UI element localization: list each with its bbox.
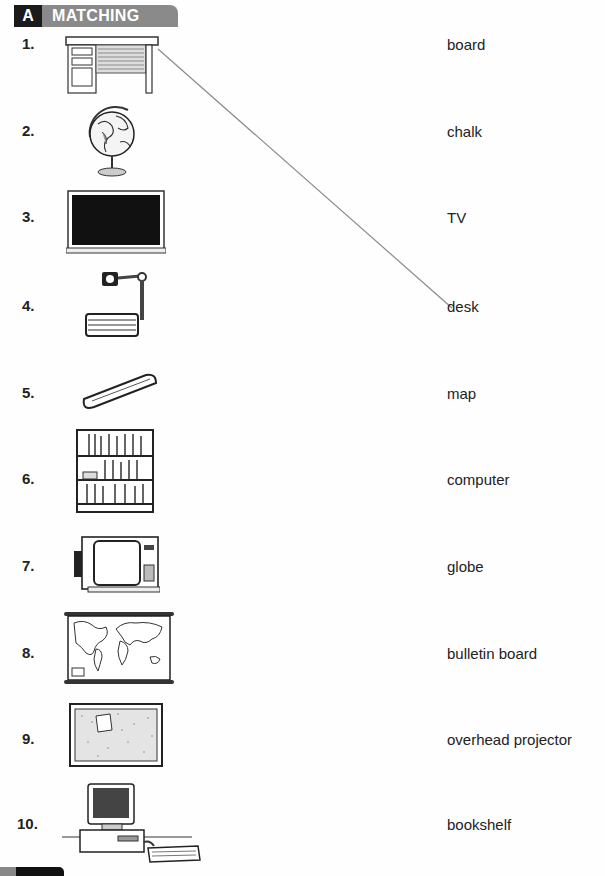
section-letter: A bbox=[14, 5, 42, 27]
section-header: A MATCHING bbox=[14, 5, 178, 27]
item-number-8: 8. bbox=[22, 644, 52, 661]
desk-illustration[interactable] bbox=[64, 34, 162, 96]
computer-illustration[interactable] bbox=[62, 782, 202, 866]
item-number-2: 2. bbox=[22, 122, 52, 139]
bulletin-board-illustration[interactable] bbox=[68, 702, 164, 768]
item-number-4: 4. bbox=[22, 297, 52, 314]
word-option[interactable]: TV bbox=[447, 209, 466, 226]
footer-tab-black bbox=[16, 867, 64, 876]
item-number-9: 9. bbox=[22, 730, 52, 747]
word-option[interactable]: globe bbox=[447, 558, 484, 575]
word-option[interactable]: computer bbox=[447, 471, 510, 488]
section-title: MATCHING bbox=[42, 5, 178, 27]
word-option[interactable]: bookshelf bbox=[447, 816, 511, 833]
word-option[interactable]: map bbox=[447, 385, 476, 402]
item-number-3: 3. bbox=[22, 208, 52, 225]
board-illustration[interactable] bbox=[66, 189, 166, 255]
word-option[interactable]: chalk bbox=[447, 123, 482, 140]
item-number-7: 7. bbox=[22, 557, 52, 574]
footer-tab-gray bbox=[0, 867, 16, 876]
word-option[interactable]: overhead projector bbox=[447, 731, 572, 748]
item-number-10: 10. bbox=[17, 815, 47, 832]
word-option[interactable]: board bbox=[447, 36, 485, 53]
item-number-5: 5. bbox=[22, 384, 52, 401]
word-option[interactable]: desk bbox=[447, 298, 479, 315]
item-number-1: 1. bbox=[22, 35, 52, 52]
tv-illustration[interactable] bbox=[74, 531, 160, 595]
overhead-projector-illustration[interactable] bbox=[82, 268, 156, 342]
page-footer-tab bbox=[0, 867, 64, 876]
item-number-6: 6. bbox=[22, 470, 52, 487]
map-illustration[interactable] bbox=[62, 609, 176, 687]
bookshelf-illustration[interactable] bbox=[75, 428, 155, 516]
chalk-illustration[interactable] bbox=[76, 371, 160, 411]
word-option[interactable]: bulletin board bbox=[447, 645, 537, 662]
globe-illustration[interactable] bbox=[80, 102, 146, 180]
